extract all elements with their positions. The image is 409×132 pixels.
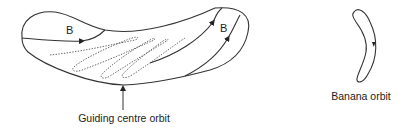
- field-line-right-2-tail: [228, 15, 240, 38]
- field-line-right-2: [185, 38, 228, 76]
- field-label-left: B: [66, 24, 73, 36]
- guiding-centre-figure: B B Guiding centre orbit: [22, 8, 249, 124]
- guiding-centre-caption: Guiding centre orbit: [78, 112, 170, 124]
- orbit-diagram: B B Guiding centre orbit Banana orbit: [0, 0, 409, 132]
- field-line-left: [22, 38, 82, 41]
- field-label-right: B: [220, 22, 227, 34]
- banana-orbit-path: [353, 10, 376, 82]
- field-line-right-1-tail: [213, 8, 222, 22]
- field-line-right-1: [150, 22, 213, 63]
- banana-orbit-caption: Banana orbit: [331, 90, 391, 102]
- banana-orbit-figure: Banana orbit: [331, 10, 391, 102]
- field-line-left-tail: [82, 30, 105, 41]
- banana-direction-arrow-icon: [372, 42, 376, 47]
